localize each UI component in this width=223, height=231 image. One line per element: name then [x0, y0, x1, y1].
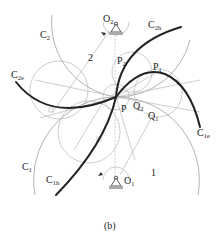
labels: O2 O1 C2 C2e C2h C1 C1e C1h P P1 P2 Q1 Q…: [11, 13, 210, 231]
pitch-circles: [34, 15, 200, 195]
construction-lines: [35, 28, 200, 180]
label-o1: O1: [124, 175, 134, 187]
label-c1: C1: [22, 161, 32, 173]
line-link2: [53, 30, 110, 112]
pivot-o1: [109, 176, 123, 189]
curve-c1h: [56, 97, 116, 195]
label-c1h: C1h: [46, 174, 60, 186]
line-link1: [120, 115, 153, 175]
label-q1: Q1: [148, 110, 158, 122]
gear-geometry-diagram: O2 O1 C2 C2e C2h C1 C1e C1h P P1 P2 Q1 Q…: [0, 0, 223, 231]
arrow-link1-icon: [98, 172, 103, 176]
label-p2: P2: [117, 55, 126, 67]
label-c2e: C2e: [11, 69, 24, 81]
arrow-link2-icon: [101, 32, 106, 36]
label-o2: O2: [103, 13, 113, 25]
curve-c2e: [16, 82, 116, 108]
line-p-right-lower: [116, 97, 200, 112]
label-p: P: [121, 103, 127, 114]
label-c1e: C1e: [197, 127, 210, 139]
label-c2h: C2h: [148, 19, 162, 31]
label-p1: P1: [153, 61, 162, 73]
figure-caption: (b): [104, 220, 116, 231]
label-link-1: 1: [151, 167, 156, 178]
line-p-left-lower: [35, 80, 116, 97]
right-angle-marker: [49, 108, 53, 112]
circle-left-upper: [30, 61, 88, 119]
line-p-p1: [116, 70, 160, 97]
label-c2: C2: [40, 29, 50, 41]
label-link-2: 2: [88, 52, 93, 63]
